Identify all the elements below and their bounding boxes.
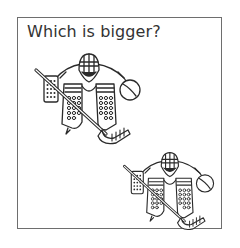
hockey-goalie-icon	[121, 149, 217, 235]
hockey-goalie-icon	[32, 50, 144, 150]
worksheet-card: Which is bigger?	[17, 17, 222, 229]
worksheet-title: Which is bigger?	[27, 22, 161, 41]
hockey-goalie-large	[32, 50, 144, 150]
hockey-goalie-small	[121, 149, 217, 235]
